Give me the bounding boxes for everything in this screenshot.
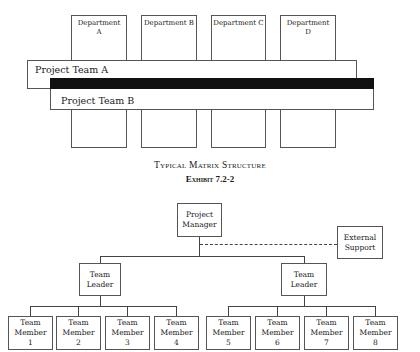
- team-member-3-number: 3: [106, 338, 149, 348]
- project-manager-label-2: Manager: [178, 220, 221, 230]
- team-member-4-label-1: Team: [155, 318, 198, 328]
- project-team-a-label: Project Team A: [35, 64, 108, 76]
- team-member-2-label-2: Member: [57, 328, 100, 338]
- team-member-6-number: 6: [256, 338, 299, 348]
- team-member-2-label-1: Team: [57, 318, 100, 328]
- left-leader-down: [100, 295, 101, 306]
- right-members-connector: [228, 306, 376, 307]
- team-member-3-label-1: Team: [106, 318, 149, 328]
- team-member-3-label-2: Member: [106, 328, 149, 338]
- external-support-label-2: Support: [338, 243, 382, 253]
- team-member-5-label-1: Team: [207, 318, 250, 328]
- team-member-8-number: 8: [354, 338, 397, 348]
- member5-stem: [228, 306, 229, 316]
- team-member-1-label-2: Member: [9, 328, 52, 338]
- leaders-connector: [100, 256, 305, 257]
- department-d-label: Department: [281, 19, 335, 28]
- department-a-label: Department: [72, 19, 126, 28]
- team-member-7-label-1: Team: [305, 318, 348, 328]
- team-member-5-number: 5: [207, 338, 250, 348]
- team-leader-right-label-2: Leader: [282, 280, 326, 290]
- team-member-6-label-1: Team: [256, 318, 299, 328]
- team-leader-right-box: Team Leader: [281, 263, 327, 296]
- department-b-label: Department B: [142, 19, 196, 28]
- member3-stem: [127, 306, 128, 316]
- team-member-4-number: 4: [155, 338, 198, 348]
- team-member-8-label-2: Member: [354, 328, 397, 338]
- left-leader-stem: [100, 256, 101, 263]
- project-team-b-header-band: [50, 78, 374, 89]
- department-d-letter: D: [281, 28, 335, 37]
- department-c-label: Department C: [212, 19, 265, 28]
- external-support-box: External Support: [337, 226, 383, 259]
- team-member-3-box: Team Member 3: [105, 316, 150, 350]
- member6-stem: [277, 306, 278, 316]
- team-member-7-box: Team Member 7: [304, 316, 349, 350]
- member1-stem: [30, 306, 31, 316]
- member7-stem: [326, 306, 327, 316]
- team-leader-left-label-2: Leader: [80, 280, 120, 290]
- team-member-8-box: Team Member 8: [353, 316, 398, 350]
- team-leader-left-box: Team Leader: [79, 263, 121, 296]
- team-member-4-label-2: Member: [155, 328, 198, 338]
- external-support-label-1: External: [338, 233, 382, 243]
- team-member-6-label-2: Member: [256, 328, 299, 338]
- team-member-7-number: 7: [305, 338, 348, 348]
- team-member-2-box: Team Member 2: [56, 316, 101, 350]
- team-member-6-box: Team Member 6: [255, 316, 300, 350]
- member8-stem: [375, 306, 376, 316]
- team-member-2-number: 2: [57, 338, 100, 348]
- right-leader-stem: [304, 256, 305, 263]
- team-member-1-box: Team Member 1: [8, 316, 53, 350]
- team-member-7-label-2: Member: [305, 328, 348, 338]
- team-member-8-label-1: Team: [354, 318, 397, 328]
- team-leader-left-label-1: Team: [80, 270, 120, 280]
- exhibit-label: Exhibit 7.2-2: [0, 174, 420, 184]
- department-a-letter: A: [72, 28, 126, 37]
- member4-stem: [176, 306, 177, 316]
- team-member-4-box: Team Member 4: [154, 316, 199, 350]
- project-team-b-label: Project Team B: [61, 95, 134, 107]
- team-member-1-label-1: Team: [9, 318, 52, 328]
- diagram-title: Typical Matrix Structure: [0, 160, 420, 170]
- right-leader-down: [304, 295, 305, 306]
- team-member-1-number: 1: [9, 338, 52, 348]
- project-manager-label-1: Project: [178, 210, 221, 220]
- team-member-5-box: Team Member 5: [206, 316, 251, 350]
- team-leader-right-label-1: Team: [282, 270, 326, 280]
- team-member-5-label-2: Member: [207, 328, 250, 338]
- manager-stem: [199, 236, 200, 257]
- external-support-dashed-link: [200, 244, 337, 246]
- member2-stem: [78, 306, 79, 316]
- left-members-connector: [30, 306, 177, 307]
- project-manager-box: Project Manager: [177, 203, 222, 237]
